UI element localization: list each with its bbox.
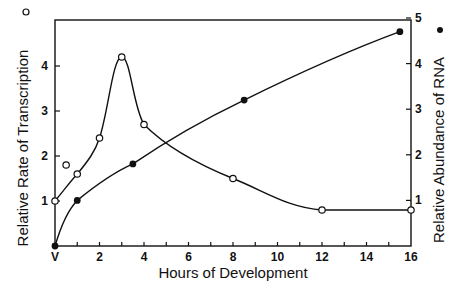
left-y-tick-label: 1 — [41, 194, 48, 208]
transcription-point — [74, 171, 80, 177]
rna-point — [129, 161, 136, 168]
left-y-tick-label: 4 — [41, 59, 48, 73]
left-y-tick-label: 3 — [41, 104, 48, 118]
transcription-point — [63, 162, 69, 168]
transcription-point — [408, 207, 414, 213]
plot-frame — [55, 20, 411, 246]
x-tick-label: 16 — [404, 250, 418, 264]
series-curves — [55, 32, 411, 246]
filled-circle-legend-icon — [437, 27, 443, 33]
right-y-tick-label: 2 — [415, 148, 422, 162]
transcription-point — [319, 207, 325, 213]
x-tick-label: 2 — [96, 250, 103, 264]
series-points — [52, 28, 415, 249]
rna-point — [52, 243, 59, 250]
left-y-axis-ticks: 1234 — [41, 59, 60, 208]
transcription-point — [141, 121, 147, 127]
transcription-point — [119, 54, 125, 60]
transcription-point — [96, 135, 102, 141]
rna-point — [241, 97, 248, 104]
left-y-axis-label: Relative Rate of Transcription — [14, 50, 31, 247]
rna-point — [396, 28, 403, 35]
rna-point — [74, 197, 81, 204]
right-y-tick-label: 5 — [415, 11, 422, 25]
x-tick-label: 4 — [141, 250, 148, 264]
x-tick-label: 14 — [360, 250, 374, 264]
right-y-axis-label: Relative Abundance of RNA — [430, 57, 447, 243]
transcription-curve — [55, 57, 411, 210]
chart: V246810121416 1234 12345 Hours of Develo… — [0, 0, 458, 295]
right-y-tick-label: 1 — [415, 193, 422, 207]
x-tick-label: 12 — [315, 250, 329, 264]
x-axis-label: Hours of Development — [158, 264, 308, 281]
right-y-tick-label: 3 — [415, 102, 422, 116]
rna-curve — [55, 32, 400, 246]
right-y-tick-label: 4 — [415, 57, 422, 71]
transcription-point — [52, 198, 58, 204]
open-circle-legend-icon — [23, 9, 29, 15]
x-tick-label: 6 — [185, 250, 192, 264]
left-y-tick-label: 2 — [41, 149, 48, 163]
x-tick-label: 8 — [230, 250, 237, 264]
right-y-axis-ticks: 12345 — [406, 11, 422, 207]
transcription-point — [230, 175, 236, 181]
x-tick-label: 10 — [271, 250, 285, 264]
x-tick-label: V — [51, 250, 59, 264]
